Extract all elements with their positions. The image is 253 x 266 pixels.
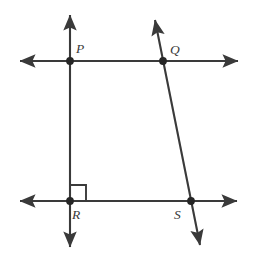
point-label-S: S: [174, 207, 181, 222]
point-label-P: P: [75, 41, 84, 56]
point-P: [66, 57, 74, 65]
geometry-diagram: P Q R S: [0, 0, 253, 266]
point-R: [66, 197, 74, 205]
point-Q: [159, 57, 167, 65]
point-label-R: R: [71, 207, 81, 222]
point-label-Q: Q: [170, 42, 180, 57]
geometry-canvas: P Q R S: [0, 0, 253, 266]
point-S: [187, 197, 195, 205]
